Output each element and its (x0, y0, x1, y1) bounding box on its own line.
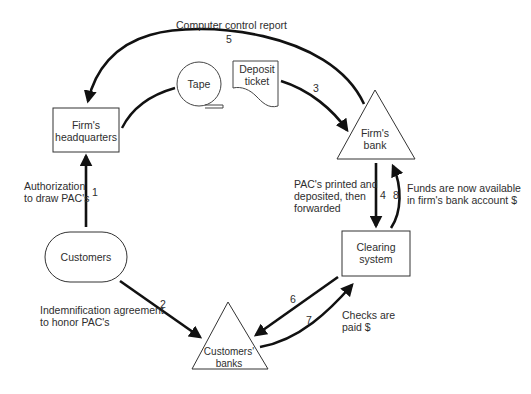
deposit-ticket-line2: ticket (236, 75, 278, 87)
customers-label: Customers (45, 251, 127, 263)
headquarters-label-line1: Firm's (53, 119, 119, 131)
flow-4-line3: forwarded (294, 202, 378, 214)
arrow-6 (256, 277, 338, 335)
flow-4-line1: PAC's printed and (294, 178, 378, 190)
flow-4-label: PAC's printed and deposited, then forwar… (294, 178, 378, 214)
flow-1-number: 1 (92, 186, 98, 198)
pac-flow-diagram: Firm's headquarters Tape Deposit ticket … (0, 0, 531, 394)
deposit-ticket-line1: Deposit (236, 63, 278, 75)
flow-5-number: 5 (226, 33, 232, 45)
flow-4-line2: deposited, then (294, 190, 378, 202)
flow-8-label: Funds are now available in firm's bank a… (407, 182, 521, 206)
customers-banks-line1: Customers' (200, 346, 258, 358)
clearing-system-line2: system (342, 253, 410, 265)
firms-bank-line1: Firm's (350, 127, 400, 139)
flow-3-number: 3 (313, 82, 319, 94)
flow-2-line2: to honor PAC's (40, 316, 164, 328)
tape-label: Tape (180, 78, 218, 90)
flow-2-line1: Indemnification agreement (40, 304, 164, 316)
flow-8-line1: Funds are now available (407, 182, 521, 194)
customers-banks-line2: banks (200, 358, 258, 370)
flow-8-number: 8 (393, 189, 399, 201)
headquarters-label-line2: headquarters (53, 131, 119, 143)
deposit-ticket-label: Deposit ticket (236, 63, 278, 87)
flow-7-label: Checks are paid $ (342, 309, 395, 333)
firms-bank-line2: bank (350, 139, 400, 151)
customers-banks-label: Customers' banks (200, 346, 258, 370)
flow-1-label: Authorization to draw PAC's (24, 180, 89, 204)
clearing-system-label: Clearing system (342, 241, 410, 265)
flow-5-label: Computer control report (176, 19, 287, 31)
flow-4-number: 4 (380, 189, 386, 201)
flow-1-line1: Authorization (24, 180, 89, 192)
flow-6-number: 6 (290, 293, 296, 305)
flow-7-line1: Checks are (342, 309, 395, 321)
flow-7-line2: paid $ (342, 321, 395, 333)
tape-to-hq-line (122, 88, 175, 128)
firms-bank-label: Firm's bank (350, 127, 400, 151)
clearing-system-line1: Clearing (342, 241, 410, 253)
flow-1-line2: to draw PAC's (24, 192, 89, 204)
flow-7-number: 7 (306, 314, 312, 326)
flow-2-label: Indemnification agreement to honor PAC's (40, 304, 164, 328)
flow-2-number: 2 (160, 298, 166, 310)
headquarters-label: Firm's headquarters (53, 119, 119, 143)
flow-8-line2: in firm's bank account $ (407, 194, 521, 206)
